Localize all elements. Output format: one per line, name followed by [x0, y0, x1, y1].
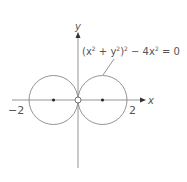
left-center-point [52, 99, 55, 102]
tick-label-neg2: −2 [8, 104, 24, 117]
equation-label: (x2 + y2)2 − 4x2 = 0 [82, 45, 180, 57]
y-axis-arrow-icon [76, 32, 81, 38]
right-center-point [101, 99, 104, 102]
origin-open-point [75, 97, 81, 103]
x-axis-arrow-icon [140, 98, 146, 103]
lemniscate-diagram: y x −2 2 (x2 + y2)2 − 4x2 = 0 [0, 0, 187, 182]
tick-label-2: 2 [129, 104, 136, 117]
leader-line [103, 59, 114, 75]
y-axis-label: y [74, 21, 82, 32]
x-axis-label: x [147, 95, 154, 106]
